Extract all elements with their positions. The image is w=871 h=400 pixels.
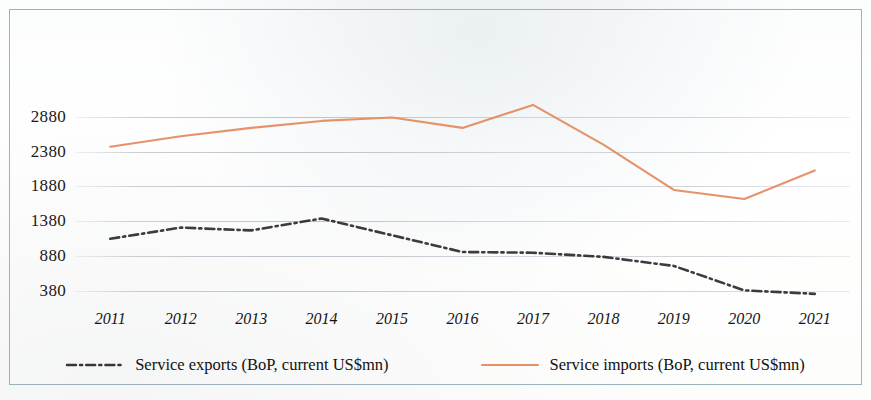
- series-line-service-imports: [110, 105, 815, 199]
- legend-label-service-exports: Service exports (BoP, current US$mn): [135, 355, 388, 375]
- x-axis-tick-label: 2012: [165, 310, 197, 328]
- y-axis-tick-label: 380: [40, 281, 66, 301]
- y-axis-labels: 3808801380188023802880: [8, 100, 66, 305]
- x-axis-tick-label: 2017: [517, 310, 549, 328]
- series-line-service-exports: [110, 219, 815, 294]
- x-axis-tick-label: 2020: [728, 310, 760, 328]
- series-layer: [75, 100, 850, 305]
- x-axis-tick-label: 2015: [376, 310, 408, 328]
- x-axis-tick-label: 2013: [235, 310, 267, 328]
- chart-legend: Service exports (BoP, current US$mn) Ser…: [9, 346, 862, 384]
- solid-line-swatch-icon: [481, 360, 539, 370]
- y-axis-tick-label: 880: [40, 246, 66, 266]
- y-axis-tick-label: 2380: [31, 142, 66, 162]
- x-axis-tick-label: 2018: [587, 310, 619, 328]
- x-axis-labels: 2011201220132014201520162017201820192020…: [75, 308, 850, 334]
- x-axis-tick-label: 2019: [658, 310, 690, 328]
- chart-screenshot: 3808801380188023802880 20112012201320142…: [0, 0, 871, 400]
- y-axis-tick-label: 1880: [31, 176, 66, 196]
- x-axis-tick-label: 2011: [95, 310, 126, 328]
- legend-item-service-imports: Service imports (BoP, current US$mn): [481, 355, 805, 375]
- legend-item-service-exports: Service exports (BoP, current US$mn): [66, 355, 388, 375]
- x-axis-tick-label: 2016: [447, 310, 479, 328]
- plot-area: [75, 100, 850, 305]
- dash-dot-line-swatch-icon: [66, 360, 124, 370]
- x-axis-tick-label: 2021: [799, 310, 831, 328]
- x-axis-tick-label: 2014: [306, 310, 338, 328]
- y-axis-tick-label: 1380: [31, 211, 66, 231]
- legend-label-service-imports: Service imports (BoP, current US$mn): [550, 355, 805, 375]
- y-axis-tick-label: 2880: [31, 107, 66, 127]
